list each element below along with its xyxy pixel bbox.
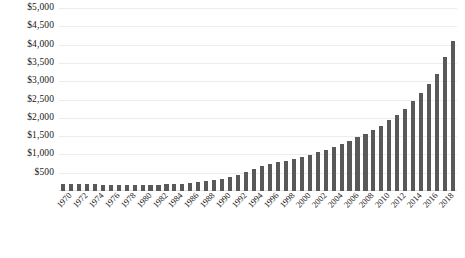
- bar: [451, 41, 455, 191]
- bar: [340, 144, 344, 191]
- x-tick-label: 1992: [230, 191, 248, 210]
- bars-layer: [59, 8, 457, 191]
- bar: [419, 93, 423, 191]
- x-tick-label: 2000: [294, 191, 312, 210]
- x-tick-label: 2004: [326, 191, 344, 210]
- y-tick-label: $4,000: [27, 40, 54, 50]
- y-tick-label: $4,500: [27, 22, 54, 32]
- y-tick-label: $2,500: [27, 95, 54, 105]
- bar: [196, 182, 200, 191]
- bar: [252, 169, 256, 191]
- bar: [188, 183, 192, 191]
- y-tick-label: $3,000: [27, 76, 54, 86]
- plot-area: [59, 8, 457, 191]
- x-tick-label: 1998: [278, 191, 296, 210]
- bar: [347, 141, 351, 192]
- x-tick-label: 2002: [310, 191, 328, 210]
- bar: [300, 157, 304, 191]
- bar: [93, 184, 97, 191]
- bar: [332, 147, 336, 191]
- bar: [244, 172, 248, 191]
- x-axis: 1970197219741976197819801982198419861988…: [59, 191, 459, 251]
- bar: [427, 84, 431, 191]
- bar: [212, 180, 216, 191]
- bar: [164, 184, 168, 191]
- bar: [260, 166, 264, 191]
- y-axis: $500$1,000$1,500$2,000$2,500$3,000$3,500…: [0, 0, 58, 195]
- x-tick-label: 1972: [71, 191, 89, 210]
- bar: [324, 150, 328, 191]
- x-tick-label: 1994: [246, 191, 264, 210]
- x-tick-label: 1980: [135, 191, 153, 210]
- bar: [435, 74, 439, 191]
- y-tick-label: $5,000: [27, 3, 54, 13]
- bar: [395, 115, 399, 191]
- bar: [228, 177, 232, 191]
- y-tick-label: $1,500: [27, 131, 54, 141]
- bar: [371, 130, 375, 191]
- bar: [443, 57, 447, 191]
- bar: [403, 109, 407, 191]
- bar-chart: $500$1,000$1,500$2,000$2,500$3,000$3,500…: [0, 0, 465, 258]
- bar: [363, 134, 367, 191]
- x-tick-label: 2018: [437, 191, 455, 210]
- bar: [204, 181, 208, 191]
- bar: [355, 137, 359, 191]
- bar: [61, 184, 65, 191]
- bar: [77, 184, 81, 191]
- bar: [316, 152, 320, 191]
- bar: [387, 120, 391, 191]
- y-tick-label: $3,500: [27, 58, 54, 68]
- x-tick-label: 1996: [262, 191, 280, 210]
- bar: [284, 161, 288, 191]
- bar: [236, 175, 240, 191]
- bar: [411, 101, 415, 191]
- y-tick-label: $500: [35, 168, 54, 178]
- bar: [268, 164, 272, 191]
- x-tick-label: 1976: [103, 191, 121, 210]
- bar: [308, 155, 312, 191]
- x-tick-label: 2016: [421, 191, 439, 210]
- x-tick-label: 1974: [87, 191, 105, 210]
- bar: [379, 126, 383, 192]
- bar: [180, 184, 184, 192]
- bar: [85, 184, 89, 191]
- y-tick-label: $2,000: [27, 113, 54, 123]
- bar: [69, 184, 73, 191]
- x-tick-label: 1978: [119, 191, 137, 210]
- bar: [276, 162, 280, 191]
- bar: [292, 159, 296, 191]
- bar: [220, 179, 224, 191]
- y-tick-label: $1,000: [27, 150, 54, 160]
